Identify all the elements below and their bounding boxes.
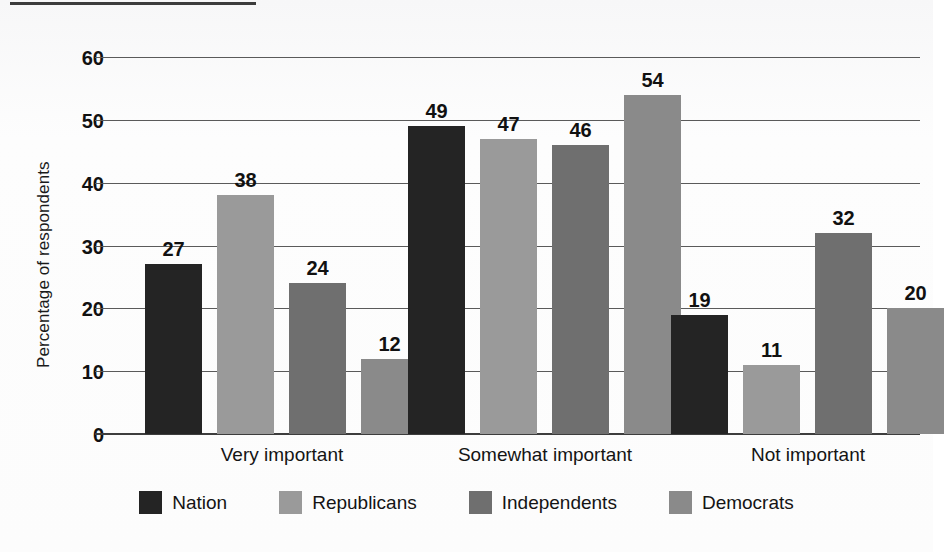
bar-value-label: 20 bbox=[904, 283, 926, 303]
legend-swatch-icon-democrats bbox=[669, 491, 692, 514]
y-tick-label-20: 20 bbox=[44, 298, 104, 321]
legend-item-republicans[interactable]: Republicans bbox=[279, 491, 417, 514]
bar-value-label: 54 bbox=[641, 70, 663, 90]
bar-very-important-republicans[interactable]: 38 bbox=[217, 195, 274, 434]
bar-very-important-nation[interactable]: 27 bbox=[145, 264, 202, 434]
bar-value-label: 27 bbox=[162, 239, 184, 259]
plot-area: 27 38 24 12 49 47 46 54 19 11 bbox=[113, 57, 920, 434]
bar-value-label: 11 bbox=[761, 340, 782, 360]
bar-somewhat-important-independents[interactable]: 46 bbox=[552, 145, 609, 434]
legend-label-nation: Nation bbox=[172, 493, 227, 512]
bar-value-label: 32 bbox=[832, 208, 854, 228]
bar-very-important-independents[interactable]: 24 bbox=[289, 283, 346, 434]
bar-somewhat-important-nation[interactable]: 49 bbox=[408, 126, 465, 434]
bar-value-label: 12 bbox=[378, 334, 400, 354]
bar-value-label: 49 bbox=[425, 101, 447, 121]
bar-value-label: 46 bbox=[569, 120, 591, 140]
y-tick-label-40: 40 bbox=[44, 173, 104, 196]
chart-legend: Nation Republicans Independents Democrat… bbox=[0, 491, 933, 514]
y-tick-label-50: 50 bbox=[44, 110, 104, 133]
bar-value-label: 19 bbox=[688, 290, 710, 310]
y-tick-label-0: 0 bbox=[44, 424, 104, 447]
legend-swatch-icon-independents bbox=[469, 491, 492, 514]
legend-label-democrats: Democrats bbox=[702, 493, 794, 512]
legend-swatch-icon-republicans bbox=[279, 491, 302, 514]
bar-value-label: 47 bbox=[497, 114, 519, 134]
bar-somewhat-important-republicans[interactable]: 47 bbox=[480, 139, 537, 434]
bar-value-label: 38 bbox=[234, 170, 256, 190]
y-tick-label-60: 60 bbox=[44, 47, 104, 70]
x-category-label-somewhat-important: Somewhat important bbox=[458, 444, 632, 466]
legend-label-republicans: Republicans bbox=[312, 493, 417, 512]
top-divider-rule bbox=[10, 2, 256, 5]
bar-not-important-independents[interactable]: 32 bbox=[815, 233, 872, 434]
legend-swatch-icon-nation bbox=[139, 491, 162, 514]
bar-not-important-republicans[interactable]: 11 bbox=[743, 365, 800, 434]
legend-label-independents: Independents bbox=[502, 493, 617, 512]
bar-not-important-nation[interactable]: 19 bbox=[671, 315, 728, 434]
x-category-label-very-important: Very important bbox=[221, 444, 344, 466]
legend-item-independents[interactable]: Independents bbox=[469, 491, 617, 514]
y-tick-label-30: 30 bbox=[44, 236, 104, 259]
gridline-60 bbox=[95, 57, 920, 58]
legend-item-democrats[interactable]: Democrats bbox=[669, 491, 794, 514]
y-tick-label-10: 10 bbox=[44, 361, 104, 384]
bar-value-label: 24 bbox=[306, 258, 328, 278]
y-axis-title-container: Percentage of respondents bbox=[0, 0, 40, 440]
bar-not-important-democrats[interactable]: 20 bbox=[887, 308, 944, 434]
x-category-label-not-important: Not important bbox=[751, 444, 865, 466]
legend-item-nation[interactable]: Nation bbox=[139, 491, 227, 514]
